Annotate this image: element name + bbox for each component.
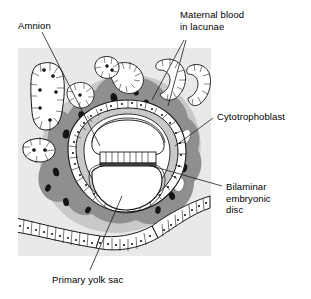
label-cytotrophoblast: Cytotrophoblast [217,111,285,123]
label-maternal-blood-in-lacunae: Maternal blood in lacunae [180,9,244,32]
label-primary-yolk-sac: Primary yolk sac [52,274,123,286]
implantation-diagram [0,0,311,299]
label-bilaminar-embryonic-disc: Bilaminar embryonic disc [226,181,271,216]
label-amnion: Amnion [18,20,51,32]
bilaminar-embryonic-disc [100,152,156,168]
uterine-gland-large [30,62,64,131]
figure-root: Amnion Maternal blood in lacunae Cytotro… [0,0,311,299]
